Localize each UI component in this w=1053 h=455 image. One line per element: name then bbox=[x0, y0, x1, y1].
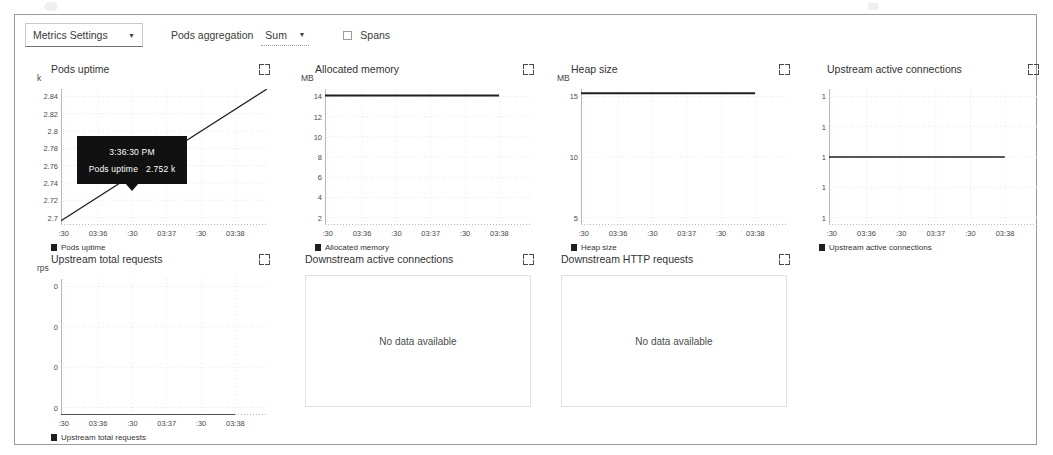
expand-icon[interactable] bbox=[523, 64, 534, 75]
tooltip-series-value: 2.752 k bbox=[146, 164, 175, 174]
y-axis-tick-label: 14 bbox=[295, 92, 322, 101]
chart-tooltip: 3:36:30 PMPods uptime2.752 k bbox=[77, 136, 187, 184]
y-axis-tick-label: 1 bbox=[805, 153, 826, 162]
page-artifact-left bbox=[44, 2, 58, 11]
x-axis-tick-label: :30 bbox=[460, 229, 470, 238]
y-axis-tick-label: 2.78 bbox=[31, 144, 58, 153]
chart-panel: Upstream total requestsrps0000:3003:36:3… bbox=[23, 253, 278, 443]
plot-area[interactable] bbox=[581, 89, 787, 225]
y-axis-tick-label: 8 bbox=[295, 153, 322, 162]
y-axis-tick-label: 15 bbox=[551, 92, 578, 101]
y-axis-tick-label: 2.82 bbox=[31, 109, 58, 118]
y-axis-unit: k bbox=[37, 73, 41, 83]
y-axis-tick-label: 12 bbox=[295, 112, 322, 121]
x-axis-tick-label: 03:38 bbox=[996, 229, 1015, 238]
y-axis-tick-label: 1 bbox=[805, 213, 826, 222]
dashboard-toolbar: Metrics Settings ▼ Pods aggregation Sum … bbox=[15, 15, 1036, 55]
chart-panel-header: Pods uptime bbox=[23, 63, 278, 80]
x-axis-tick-label: :30 bbox=[391, 229, 401, 238]
x-axis-tick-label: 03:38 bbox=[746, 229, 765, 238]
chart-title: Pods uptime bbox=[51, 63, 109, 75]
chart-title: Heap size bbox=[571, 63, 618, 75]
chart-panel-header: Upstream total requests bbox=[23, 253, 278, 270]
tooltip-series-name: Pods uptime bbox=[89, 164, 138, 174]
chart-panel-header: Downstream active connections bbox=[287, 253, 542, 270]
x-axis-tick-label: 03:37 bbox=[677, 229, 696, 238]
expand-icon[interactable] bbox=[1028, 64, 1039, 75]
metrics-settings-label: Metrics Settings bbox=[33, 29, 108, 41]
legend-label: Allocated memory bbox=[325, 243, 389, 252]
expand-icon[interactable] bbox=[259, 254, 270, 265]
chart-panel: Downstream active connectionsNo data ava… bbox=[287, 253, 542, 413]
chart-legend[interactable]: Allocated memory bbox=[315, 243, 389, 252]
chart-legend[interactable]: Pods uptime bbox=[51, 243, 105, 252]
legend-swatch bbox=[51, 434, 57, 441]
chart-panel-header: Upstream active connections bbox=[799, 63, 1049, 80]
y-axis-tick-label: 1 bbox=[805, 183, 826, 192]
chevron-down-icon: ▼ bbox=[298, 31, 305, 38]
y-axis-tick-label: 2.84 bbox=[31, 92, 58, 101]
x-axis-tick-label: :30 bbox=[579, 229, 589, 238]
expand-icon[interactable] bbox=[779, 64, 790, 75]
plot-area[interactable] bbox=[829, 89, 1037, 225]
x-axis-tick-label: :30 bbox=[59, 419, 69, 428]
y-axis-tick-label: 6 bbox=[295, 173, 322, 182]
pods-aggregation-label: Pods aggregation bbox=[171, 29, 253, 41]
expand-icon[interactable] bbox=[523, 254, 534, 265]
chart-legend[interactable]: Upstream total requests bbox=[51, 433, 146, 442]
x-axis-tick-label: :30 bbox=[716, 229, 726, 238]
x-axis-tick-label: :30 bbox=[323, 229, 333, 238]
legend-swatch bbox=[819, 244, 825, 251]
y-axis-tick-label: 2.74 bbox=[31, 178, 58, 187]
no-data-text: No data available bbox=[635, 336, 712, 347]
y-axis-unit: MB bbox=[301, 73, 314, 83]
legend-swatch bbox=[51, 244, 57, 251]
y-axis-tick-label: 10 bbox=[551, 153, 578, 162]
pods-aggregation-group: Pods aggregation Sum ▼ bbox=[171, 24, 309, 46]
no-data-placeholder: No data available bbox=[561, 275, 787, 407]
plot-area[interactable] bbox=[325, 89, 531, 225]
no-data-placeholder: No data available bbox=[305, 275, 531, 407]
expand-icon[interactable] bbox=[779, 254, 790, 265]
y-axis-unit: MB bbox=[557, 73, 570, 83]
y-axis-tick-label: 0 bbox=[31, 403, 58, 412]
x-axis-tick-label: 03:37 bbox=[157, 229, 176, 238]
y-axis-tick-label: 2.7 bbox=[31, 213, 58, 222]
legend-label: Upstream total requests bbox=[61, 433, 146, 442]
chart-panel: Allocated memoryMB1412108642:3003:36:300… bbox=[287, 63, 542, 253]
x-axis-tick-label: :30 bbox=[827, 229, 837, 238]
y-axis-tick-label: 4 bbox=[295, 193, 322, 202]
y-axis-unit: rps bbox=[37, 263, 49, 273]
x-axis-tick-label: :30 bbox=[127, 419, 137, 428]
chart-title: Downstream HTTP requests bbox=[561, 253, 693, 265]
page-artifact-right bbox=[868, 3, 878, 10]
chart-panel: Heap sizeMB15105:3003:36:3003:37:3003:38… bbox=[543, 63, 798, 253]
chart-legend[interactable]: Upstream active connections bbox=[819, 243, 932, 252]
chart-title: Upstream active connections bbox=[827, 63, 962, 75]
x-axis-tick-label: 03:37 bbox=[421, 229, 440, 238]
chart-panel: Upstream active connections11111:3003:36… bbox=[799, 63, 1049, 253]
x-axis-tick-label: :30 bbox=[127, 229, 137, 238]
pods-aggregation-dropdown[interactable]: Sum ▼ bbox=[261, 24, 309, 46]
chart-panel-header: Heap size bbox=[543, 63, 798, 80]
legend-swatch bbox=[315, 244, 321, 251]
chart-legend[interactable]: Heap size bbox=[571, 243, 617, 252]
y-axis-tick-label: 5 bbox=[551, 213, 578, 222]
metrics-settings-dropdown[interactable]: Metrics Settings ▼ bbox=[25, 23, 143, 47]
x-axis-tick-label: 03:37 bbox=[926, 229, 945, 238]
expand-icon[interactable] bbox=[259, 64, 270, 75]
y-axis-tick-label: 0 bbox=[31, 322, 58, 331]
chevron-down-icon: ▼ bbox=[128, 32, 135, 39]
spans-checkbox[interactable] bbox=[343, 31, 352, 40]
x-axis-tick-label: 03:38 bbox=[490, 229, 509, 238]
y-axis-tick-label: 10 bbox=[295, 132, 322, 141]
metrics-dashboard-panel: Metrics Settings ▼ Pods aggregation Sum … bbox=[14, 14, 1037, 445]
x-axis-tick-label: 03:37 bbox=[157, 419, 176, 428]
legend-label: Heap size bbox=[581, 243, 617, 252]
tooltip-timestamp: 3:36:30 PM bbox=[109, 147, 154, 157]
x-axis-tick-label: :30 bbox=[647, 229, 657, 238]
spans-checkbox-group[interactable]: Spans bbox=[343, 29, 390, 41]
y-axis-tick-label: 1 bbox=[805, 122, 826, 131]
spans-label: Spans bbox=[360, 29, 390, 41]
plot-area[interactable] bbox=[61, 279, 267, 415]
